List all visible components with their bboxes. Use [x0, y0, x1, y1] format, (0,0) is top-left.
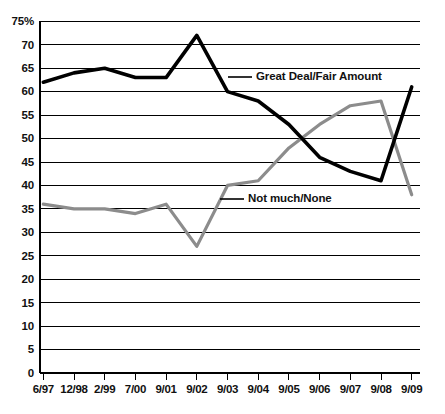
plot-area [0, 0, 445, 414]
x-tick-label-12: 9/09 [392, 383, 432, 395]
line-chart: 75% 70 65 60 55 50 45 40 35 30 25 20 15 … [0, 0, 445, 414]
x-tick-marks [43, 373, 411, 380]
series-annotation-not-much-none: Not much/None [248, 192, 332, 204]
series-annotation-great-deal-fair-amount: Great Deal/Fair Amount [256, 70, 382, 82]
series-line-great-deal-fair-amount [43, 35, 411, 180]
